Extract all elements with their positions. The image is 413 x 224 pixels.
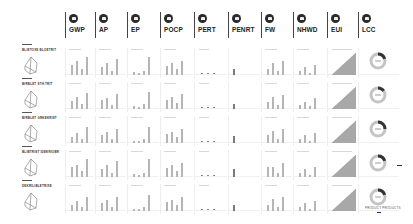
- variant-row[interactable]: BIRBLET STH.TRIT: [0, 78, 413, 114]
- chart-cell-pert: [194, 184, 227, 214]
- bar: [76, 201, 78, 211]
- bar: [282, 163, 284, 177]
- bar: [181, 197, 183, 211]
- footer: PRODUCT PRODUCTS: [365, 206, 401, 210]
- donut-chart: [369, 188, 387, 206]
- leaf-icon: [198, 14, 207, 23]
- chart-cell-penrt: [228, 150, 260, 180]
- ref-line: [265, 151, 277, 152]
- ref-line: [332, 117, 352, 118]
- variant-row[interactable]: BLIBTRIST IDEKRIOBR: [0, 146, 413, 182]
- bar: [101, 135, 103, 143]
- ref-line: [265, 49, 277, 50]
- bar: [171, 132, 173, 143]
- building-thumbnail: [22, 156, 40, 178]
- ref-line: [99, 49, 111, 50]
- bar: [148, 159, 150, 177]
- row-title: BLIBTRIST IDEKRIOBR: [22, 150, 59, 154]
- bar: [81, 207, 83, 211]
- bar: [71, 101, 73, 109]
- globe-icon: [69, 14, 78, 23]
- bar: [116, 59, 118, 75]
- bar: [277, 139, 279, 143]
- row-title: BIRBLET GRKEKRIST: [22, 116, 57, 120]
- bar: [166, 202, 168, 211]
- ref-line: [164, 117, 176, 118]
- building-thumbnail: [22, 190, 40, 212]
- ref-line: [131, 151, 143, 152]
- bar: [171, 63, 173, 75]
- ref-line: [199, 185, 209, 186]
- bar: [314, 201, 316, 211]
- bar: [133, 174, 135, 177]
- baseline: [359, 142, 399, 143]
- bar: [314, 133, 316, 143]
- bar: [267, 102, 269, 109]
- footer-marker: [377, 212, 381, 213]
- column-header-nhwd: NHWD: [293, 12, 318, 38]
- area-ramp: [332, 53, 356, 75]
- column-label: PERT: [198, 26, 216, 33]
- chart-cell-fw: [261, 150, 292, 180]
- chart-cell-nhwd: [293, 116, 326, 146]
- bar: [71, 167, 73, 177]
- data-point: [207, 73, 209, 75]
- donut-chart: [369, 120, 387, 138]
- bar: [106, 165, 108, 177]
- ref-line: [265, 83, 277, 84]
- ref-line: [199, 49, 209, 50]
- chart-cell-gwp: [65, 150, 94, 180]
- bar: [304, 135, 306, 143]
- column-label: PENRT: [232, 26, 255, 33]
- bar: [148, 57, 150, 75]
- row-label: BIRBLET STH.TRIT: [22, 78, 53, 86]
- ref-line: [297, 49, 309, 50]
- bar: [166, 66, 168, 75]
- bar: [101, 100, 103, 109]
- variant-row[interactable]: BLIETOXE BLOETRIT: [0, 44, 413, 80]
- ref-line: [99, 117, 111, 118]
- ref-line: [69, 49, 81, 50]
- row-label: BLIETOXE BLOETRIT: [22, 44, 56, 52]
- bar: [277, 71, 279, 75]
- data-point: [213, 73, 215, 75]
- bolt-icon: [331, 14, 340, 23]
- chart-cell-lcc: [358, 116, 399, 146]
- bar: [106, 63, 108, 75]
- ref-line: [199, 117, 209, 118]
- bar: [116, 94, 118, 109]
- baseline: [195, 74, 227, 75]
- chart-cell-gwp: [65, 82, 94, 112]
- chart-cell-pert: [194, 116, 227, 146]
- bar: [148, 92, 150, 109]
- bar: [111, 139, 113, 143]
- chart-cell-pert: [194, 150, 227, 180]
- bar: [176, 137, 178, 143]
- bar: [171, 97, 173, 109]
- column-label: EUI: [331, 26, 342, 33]
- chart-cell-ap: [95, 48, 126, 78]
- bar: [299, 139, 301, 143]
- chart-cell-gwp: [65, 116, 94, 146]
- bar: [116, 129, 118, 143]
- chart-cell-eui: [327, 116, 357, 146]
- bar: [272, 167, 274, 177]
- row-rule: [22, 146, 32, 147]
- bar: [233, 104, 235, 109]
- bar: [314, 98, 316, 109]
- bar: [176, 205, 178, 211]
- baseline: [195, 176, 227, 177]
- variant-row[interactable]: DEKRILIBLETRIXE: [0, 180, 413, 216]
- bar: [277, 173, 279, 177]
- chart-cell-fw: [261, 184, 292, 214]
- column-label: GWP: [69, 26, 85, 33]
- variant-row[interactable]: BIRBLET GRKEKRIST: [0, 112, 413, 148]
- ref-line: [265, 117, 277, 118]
- column-header-penrt: PENRT: [228, 12, 255, 38]
- column-label: NHWD: [297, 26, 318, 33]
- data-point: [213, 209, 215, 211]
- chart-cell-nhwd: [293, 82, 326, 112]
- bar: [81, 171, 83, 177]
- donut-chart: [369, 154, 387, 172]
- bar: [233, 69, 235, 75]
